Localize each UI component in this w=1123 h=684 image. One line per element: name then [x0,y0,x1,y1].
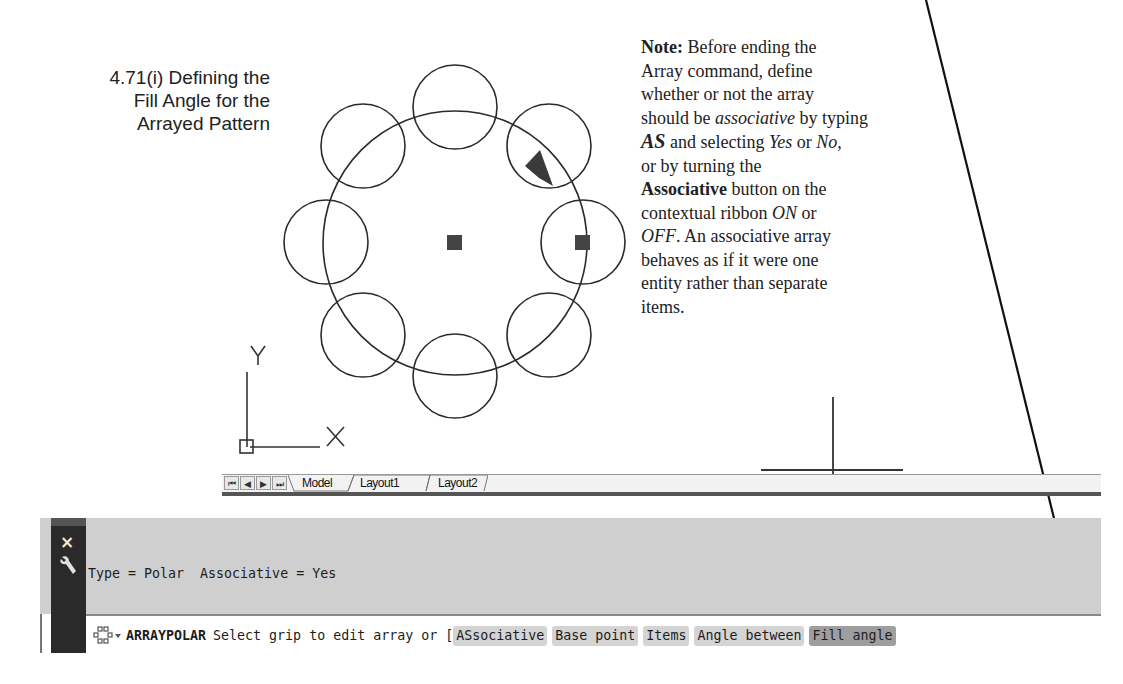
note-emphasis: ON [772,203,797,223]
note-text: Before ending the [683,37,816,57]
note-text: should be [641,108,715,128]
ucs-icon [240,346,344,453]
note-keyword: AS [641,130,665,152]
note-text: entity rather than separate [641,272,941,296]
first-tab-button[interactable]: ⏮ [224,476,239,490]
array-item-circle[interactable] [413,65,497,149]
command-separator [86,614,1101,616]
note-emphasis: Yes [769,132,792,152]
prompt-text: Select grip to edit array or [ [213,627,453,645]
close-icon[interactable]: × [60,532,74,552]
callout-arrow-icon [926,0,1076,585]
note-text: or [797,203,817,223]
note-emphasis: No [816,132,837,152]
note-text: or by turning the [641,155,941,179]
history-line: Type = Polar Associative = Yes [88,563,881,586]
array-item-circle[interactable] [321,293,405,377]
command-name: ARRAYPOLAR [126,627,206,645]
note-text: items. [641,296,941,320]
tab-layout2[interactable]: Layout2 [438,475,477,491]
prev-tab-button[interactable]: ◀ [240,476,255,490]
note-text: . An associative array [676,226,831,246]
option-associative[interactable]: ASsociative [453,626,547,646]
note-emphasis: associative [715,108,795,128]
option-angle-between[interactable]: Angle between [694,626,804,646]
wrench-icon[interactable] [58,554,78,576]
note-text: whether or not the array [641,83,941,107]
tab-model[interactable]: Model [302,475,332,491]
command-line-sidebar: × [51,518,86,653]
tab-layout1[interactable]: Layout1 [360,475,399,491]
option-fill-angle[interactable]: Fill angle [809,626,895,646]
note-text: contextual ribbon [641,203,772,223]
note-text: button on the [727,179,827,199]
tab-bar-border [222,492,1101,496]
note-keyword: Associative [641,179,727,199]
note-text: behaves as if it were one [641,249,941,273]
radius-grip-icon[interactable] [575,235,590,250]
crosshair-cursor-icon [761,397,903,477]
note-text: , [837,132,842,152]
note-text: Array command, define [641,60,941,84]
fill-angle-grip-icon[interactable] [525,150,553,186]
command-history: Type = Polar Associative = Yes Specify c… [88,519,881,684]
option-items[interactable]: Items [643,626,689,646]
layout-tab-bar: ⏮ ◀ ▶ ⏭ Model Layout1 Layout2 [222,474,1101,492]
command-input[interactable]: ARRAYPOLAR Select grip to edit array or … [86,617,1101,653]
command-customize-icon[interactable] [92,626,122,644]
array-item-circle[interactable] [413,334,497,418]
last-tab-button[interactable]: ⏭ [272,476,287,490]
note-emphasis: OFF [641,226,676,246]
array-item-circle[interactable] [321,104,405,188]
note-text: by typing [795,108,868,128]
center-grip-icon[interactable] [447,235,462,250]
note-text: and selecting [665,132,768,152]
note-callout: Note: Before ending the Array command, d… [641,36,941,319]
drag-handle[interactable] [51,518,86,526]
note-label: Note: [641,37,683,57]
option-base-point[interactable]: Base point [552,626,638,646]
note-text: or [792,132,816,152]
next-tab-button[interactable]: ▶ [256,476,271,490]
